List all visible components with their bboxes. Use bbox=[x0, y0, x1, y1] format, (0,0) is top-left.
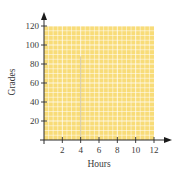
y-tick-label: 60 bbox=[30, 78, 40, 88]
y-tick-label: 80 bbox=[30, 59, 40, 69]
y-axis-arrow-icon bbox=[41, 12, 47, 20]
x-tick-label: 10 bbox=[131, 145, 141, 155]
x-axis-title: Hours bbox=[87, 159, 111, 169]
x-tick-label: 8 bbox=[115, 145, 120, 155]
x-tick-label: 2 bbox=[60, 145, 65, 155]
y-tick-label: 40 bbox=[30, 97, 40, 107]
x-tick-label: 4 bbox=[78, 145, 83, 155]
y-tick-label: 20 bbox=[30, 116, 40, 126]
chart: 24681012 20406080100120 Hours Grades bbox=[0, 0, 179, 179]
plot-area bbox=[44, 26, 154, 140]
x-tick-label: 6 bbox=[97, 145, 102, 155]
y-axis-title: Grades bbox=[7, 68, 17, 95]
x-tick-label: 12 bbox=[150, 145, 159, 155]
y-tick-label: 100 bbox=[26, 40, 40, 50]
y-tick-label: 120 bbox=[26, 21, 40, 31]
x-axis-arrow-icon bbox=[164, 137, 172, 143]
